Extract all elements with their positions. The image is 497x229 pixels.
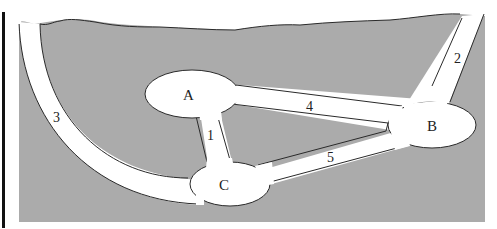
tunnel-diagram: A B C 1 2 3 4 5 (0, 0, 497, 229)
chamber-b-label: B (427, 118, 437, 134)
tunnel-2-label: 2 (454, 51, 461, 66)
chamber-c-label: C (219, 177, 229, 193)
tunnel-3-label: 3 (53, 110, 60, 125)
frame-bar (2, 12, 5, 228)
tunnel-5-label: 5 (327, 150, 334, 165)
chamber-a-label: A (183, 87, 194, 103)
tunnel-4-label: 4 (306, 99, 313, 114)
tunnel-1-label: 1 (207, 128, 214, 143)
